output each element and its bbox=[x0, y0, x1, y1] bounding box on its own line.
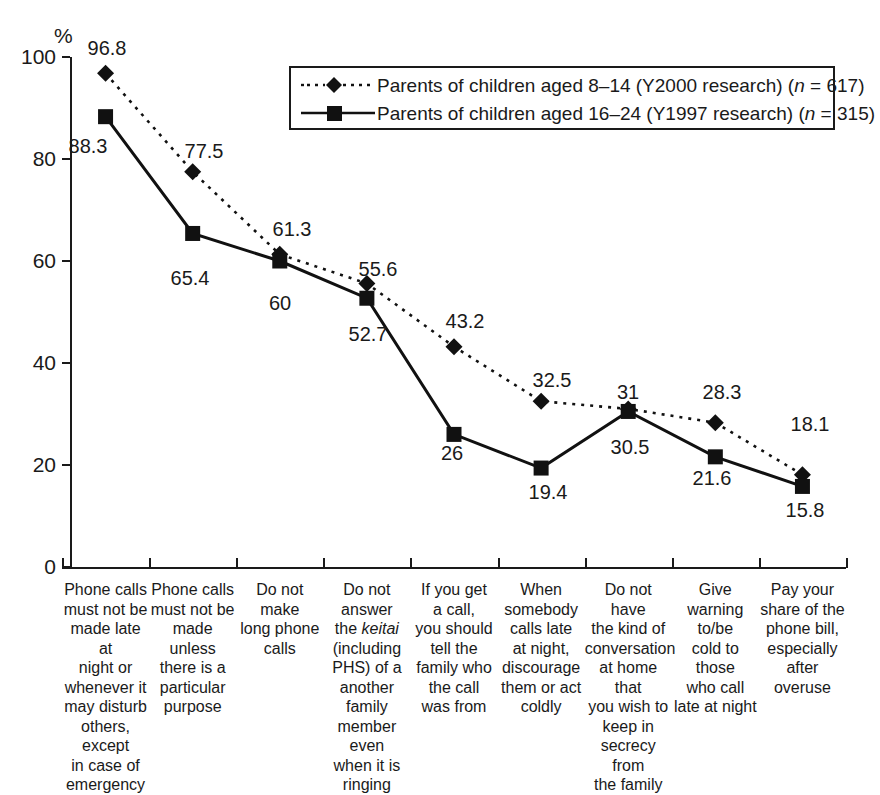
value-label: 60 bbox=[269, 293, 291, 313]
value-label: 55.6 bbox=[359, 259, 398, 279]
data-point-diamond[interactable] bbox=[184, 163, 201, 180]
legend-marker-diamond-icon bbox=[299, 74, 377, 96]
data-point-diamond[interactable] bbox=[97, 65, 114, 82]
legend-entry-0-label: Parents of children aged 8–14 (Y2000 res… bbox=[377, 76, 864, 95]
x-axis-category-label: Phone callsmust not bemade late atnight … bbox=[62, 580, 149, 795]
value-label: 28.3 bbox=[703, 382, 742, 402]
legend-marker-square-icon bbox=[299, 102, 377, 124]
value-label: 88.3 bbox=[69, 136, 108, 156]
data-point-square[interactable] bbox=[708, 449, 723, 464]
value-label: 26 bbox=[441, 443, 463, 463]
data-point-diamond[interactable] bbox=[446, 338, 463, 355]
value-label: 65.4 bbox=[171, 268, 210, 288]
value-label: 61.3 bbox=[273, 219, 312, 239]
value-label: 15.8 bbox=[786, 500, 825, 520]
x-axis-category-labels: Phone callsmust not bemade late atnight … bbox=[62, 580, 846, 776]
x-axis-category-label: Whensomebodycalls lateat night,discourag… bbox=[498, 580, 585, 717]
x-axis-category-label: Do nothavethe kind ofconversationat home… bbox=[585, 580, 672, 795]
legend-entry-0: Parents of children aged 8–14 (Y2000 res… bbox=[299, 72, 864, 98]
x-axis-category-label: Do not answerthe keitai(includingPHS) of… bbox=[323, 580, 410, 795]
data-point-square[interactable] bbox=[621, 404, 636, 419]
value-label: 21.6 bbox=[693, 468, 732, 488]
legend: Parents of children aged 8–14 (Y2000 res… bbox=[289, 66, 835, 130]
legend-entry-1: Parents of children aged 16–24 (Y1997 re… bbox=[299, 100, 875, 126]
legend-entry-1-label: Parents of children aged 16–24 (Y1997 re… bbox=[377, 104, 875, 123]
value-label: 18.1 bbox=[791, 414, 830, 434]
x-axis-category-label: Do notmakelong phonecalls bbox=[236, 580, 323, 658]
x-axis-category-label: Phone callsmust not bemadeunlessthere is… bbox=[149, 580, 236, 717]
data-point-square[interactable] bbox=[534, 461, 549, 476]
value-label: 77.5 bbox=[185, 141, 224, 161]
series-line-0 bbox=[106, 73, 803, 474]
data-point-square[interactable] bbox=[447, 427, 462, 442]
value-label: 32.5 bbox=[533, 370, 572, 390]
data-point-diamond[interactable] bbox=[707, 414, 724, 431]
data-point-square[interactable] bbox=[795, 479, 810, 494]
value-label: 31 bbox=[617, 382, 639, 402]
value-label: 96.8 bbox=[88, 38, 127, 58]
data-point-diamond[interactable] bbox=[533, 393, 550, 410]
data-point-square[interactable] bbox=[359, 291, 374, 306]
data-point-square[interactable] bbox=[272, 254, 287, 269]
data-point-square[interactable] bbox=[185, 226, 200, 241]
value-label: 52.7 bbox=[349, 324, 388, 344]
x-axis-category-label: If you geta call,you shouldtell thefamil… bbox=[410, 580, 497, 717]
value-label: 19.4 bbox=[529, 482, 568, 502]
value-label: 43.2 bbox=[446, 311, 485, 331]
x-axis-category-label: Pay yourshare of thephone bill,especiall… bbox=[759, 580, 846, 697]
x-axis-category-label: Givewarningto/becold tothosewho calllate… bbox=[672, 580, 759, 717]
data-point-square[interactable] bbox=[98, 109, 113, 124]
value-label: 30.5 bbox=[611, 437, 650, 457]
